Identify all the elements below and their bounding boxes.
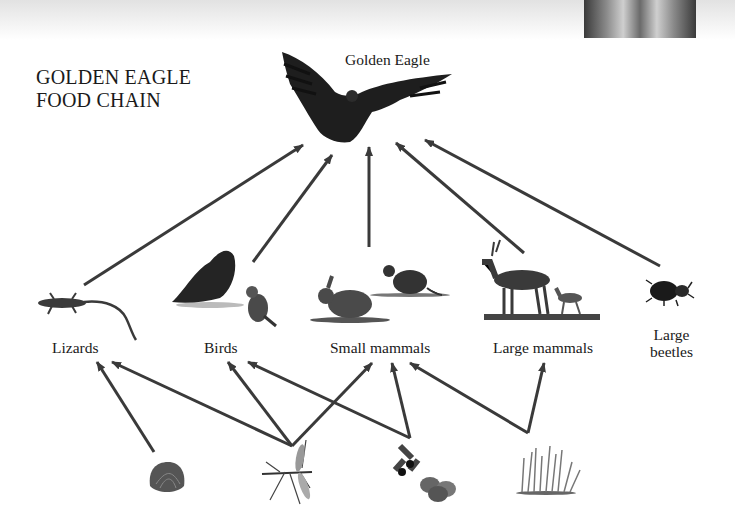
shell-icon — [150, 462, 185, 492]
birds-icon — [172, 251, 276, 326]
berries-icon — [395, 446, 456, 502]
arrows-to-eagle — [84, 140, 660, 285]
arrow-lizards-to-eagle — [84, 145, 303, 285]
food-chain-diagram — [0, 0, 735, 513]
arrow-shell-to-lizards — [97, 362, 154, 452]
grass-icon — [516, 446, 580, 495]
deer-icon — [482, 240, 600, 320]
crane-fly-icon — [262, 440, 313, 504]
arrow-beetles-to-eagle — [425, 140, 660, 266]
large-beetles-label-line-1: Large — [650, 326, 693, 343]
arrow-berries-to-birds — [248, 362, 410, 438]
large-beetles-label-line-2: beetles — [650, 343, 693, 360]
arrow-grass-to-large-mammals — [528, 363, 544, 433]
large-mammals-label: Large mammals — [493, 339, 593, 357]
small-mammals-label: Small mammals — [330, 339, 430, 357]
large-beetles-label: Large beetles — [650, 326, 693, 360]
arrow-insect-to-small-mammals — [292, 363, 372, 446]
golden-eagle-label: Golden Eagle — [345, 51, 430, 69]
arrow-insect-to-lizards — [112, 362, 292, 446]
arrows-to-prey — [97, 362, 544, 452]
birds-label: Birds — [204, 339, 238, 357]
lizards-label: Lizards — [52, 339, 98, 357]
lizard-icon — [38, 293, 136, 340]
arrow-berries-to-small-mammals — [392, 363, 410, 438]
rabbit-rat-icon — [310, 265, 450, 323]
arrow-grass-to-small-mammals — [410, 363, 528, 433]
arrow-insect-to-birds — [228, 362, 292, 446]
beetle-icon — [646, 280, 694, 306]
